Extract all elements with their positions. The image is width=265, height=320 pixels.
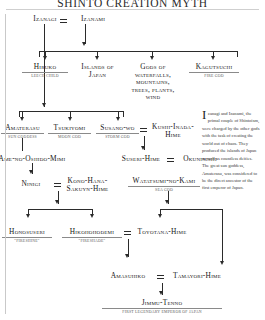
connector-watatsumi-bus-right [222, 209, 223, 263]
node-watatsumi-no-kami[interactable]: Watatsumi-no-Kami SEA GOD [128, 177, 200, 192]
node-tamayori-hime[interactable]: Tamayori-Hime [166, 272, 228, 280]
arrow-tamayori-hime [220, 261, 224, 265]
node-label: Izanami [70, 15, 116, 23]
node-label: Honosuseri [2, 228, 52, 236]
node-label: Kushi-Inada-Hime [150, 123, 196, 138]
node-islands-of-japan[interactable]: Islands of Japan [76, 63, 119, 78]
connector-triad-bus [19, 111, 123, 112]
marriage-symbol-hikohohodemi-toyotana [124, 231, 131, 235]
node-label: Susano-wo [96, 124, 139, 132]
connector-bus-right-end [237, 51, 238, 57]
arrow-tsukiyomi [68, 117, 72, 121]
node-jimmu-tenno[interactable]: Jimmu-Tenno FIRST LEGENDARY EMPEROR OF J… [102, 299, 222, 314]
node-ame-no-oshido-mimi[interactable]: Ame-no-Oshido-Mimi [0, 155, 66, 163]
node-label: Islands of Japan [76, 63, 119, 78]
node-label: Toyotana-Hime [134, 228, 190, 236]
node-susanowo[interactable]: Susano-wo STORM GOD [96, 124, 139, 139]
marriage-symbol-susanowo-kushi [140, 128, 147, 132]
node-subtitle: "FIRESHADE" [62, 237, 122, 243]
arrow-toyotana-hime [158, 214, 162, 218]
connector-couple-descend [85, 24, 86, 44]
arrow-ninigi [29, 170, 33, 174]
node-label: Jimmu-Tenno [102, 299, 222, 307]
node-subtitle: FIRE GOD [189, 72, 239, 78]
page-title: SHINTO CREATION MYTH [0, 0, 265, 9]
node-subtitle: MOON GOD [48, 133, 91, 139]
connector-amaterasu-child [22, 138, 23, 151]
arrow-susanowo [116, 117, 120, 121]
arrow-to-triad-bus [42, 103, 46, 107]
arrow-hiruko [43, 56, 47, 60]
arrow-hikohohodemi [90, 214, 94, 218]
arrow-amaterasu [20, 117, 24, 121]
arrow-gods-nature [150, 56, 154, 60]
connector-watatsumi-bus [160, 209, 222, 210]
node-subtitle: FIRST LEGENDARY EMPEROR OF JAPAN [102, 308, 222, 314]
node-label: Ninigi [9, 180, 53, 188]
node-subtitle: "FIRESHINE" [2, 237, 52, 243]
node-gods-of-nature[interactable]: Gods of waterfalls, mountains, trees, pl… [128, 63, 178, 101]
node-suseri-hime[interactable]: Suseri-Hime [116, 155, 166, 163]
node-subtitle: LEECH CHILD [22, 72, 68, 78]
connector-children-bus [39, 51, 237, 52]
diagram-canvas: SHINTO CREATION MYTH Izanagi Izanami Hir… [0, 0, 265, 320]
arrow-honosuseri [26, 214, 30, 218]
marriage-symbol-amasuhiko-tamayori [157, 275, 164, 279]
node-izanami[interactable]: Izanami [70, 15, 116, 23]
arrow-kagutsuchi [211, 56, 215, 60]
node-label: Kono-Hana-Sakuyn-Hime [64, 177, 111, 192]
sidebar-description: Izanagi and Izanami, the primal couple o… [202, 110, 260, 192]
node-amasuhiko[interactable]: Amasuhiko [100, 272, 156, 280]
node-label: Watatsumi-no-Kami [128, 177, 200, 185]
node-hikohohodemi[interactable]: Hikohohodemi "FIRESHADE" [62, 228, 122, 243]
marriage-symbol-suseri-okuninishi [167, 158, 174, 162]
node-label: Amaterasu [1, 124, 44, 132]
arrow-ninigi-children-bus [55, 200, 59, 204]
node-tsukiyomi[interactable]: Tsukiyomi MOON GOD [48, 124, 91, 139]
node-toyotana-hime[interactable]: Toyotana-Hime [134, 228, 190, 236]
arrow-suseri-hime [141, 146, 145, 150]
node-label: Kagutsuchi [189, 63, 239, 71]
arrow-watatsumi-bus [165, 200, 169, 204]
node-honosuseri[interactable]: Honosuseri "FIRESHINE" [2, 228, 52, 243]
connector-bus-left-end [39, 51, 40, 57]
sidebar-body-text: zanagi and Izanami, the primal couple of… [202, 111, 259, 190]
arrow-amasuhiko [125, 254, 129, 258]
node-kushi-inada-hime[interactable]: Kushi-Inada-Hime [150, 123, 196, 138]
node-label: Suseri-Hime [116, 155, 166, 163]
node-label: Amasuhiko [100, 272, 156, 280]
node-label: Tamayori-Hime [166, 272, 228, 280]
node-amaterasu[interactable]: Amaterasu SUN GODDESS [1, 124, 44, 139]
marriage-symbol-izanagi-izanami [60, 19, 67, 23]
node-hiruko[interactable]: Hiruko LEECH CHILD [22, 63, 68, 78]
arrow-to-children-bus [82, 42, 86, 46]
arrow-islands [95, 56, 99, 60]
node-label: Hiruko [22, 63, 68, 71]
node-kono-hana-sakuyn-hime[interactable]: Kono-Hana-Sakuyn-Hime [64, 177, 111, 192]
node-label: Hikohohodemi [62, 228, 122, 236]
arrow-jimmu-tenno [159, 291, 163, 295]
marriage-symbol-ninigi-konohana [54, 183, 61, 187]
node-label: Tsukiyomi [48, 124, 91, 132]
title-divider [6, 9, 259, 10]
node-ninigi[interactable]: Ninigi [9, 180, 53, 188]
node-label: Gods of waterfalls, mountains, trees, pl… [128, 63, 178, 101]
node-subtitle: SEA GOD [128, 186, 200, 192]
node-kagutsuchi[interactable]: Kagutsuchi FIRE GOD [189, 63, 239, 78]
connector-ninigi-bus [28, 209, 92, 210]
node-subtitle: STORM GOD [96, 133, 139, 139]
node-label: Ame-no-Oshido-Mimi [0, 155, 66, 163]
page-left-rule [5, 14, 6, 314]
connector-triad-right-end [123, 111, 124, 117]
